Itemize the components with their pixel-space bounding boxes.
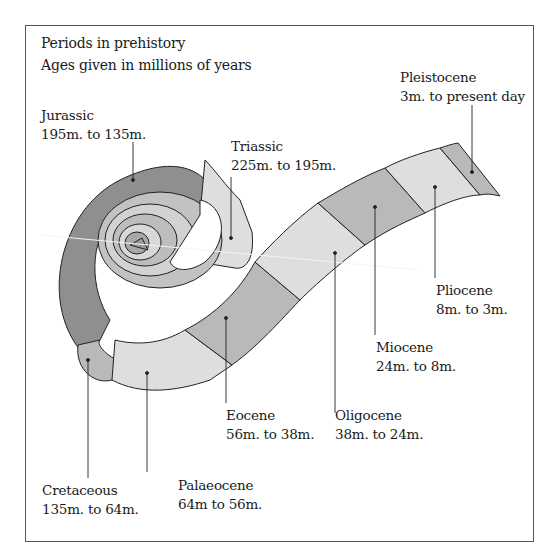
period-range: 56m. to 38m. [226, 425, 314, 444]
period-name: Palaeocene [178, 476, 262, 495]
period-range: 24m. to 8m. [376, 357, 456, 376]
label-triassic: Triassic 225m. to 195m. [231, 137, 336, 175]
period-name: Pleistocene [400, 68, 525, 87]
label-miocene: Miocene 24m. to 8m. [376, 338, 456, 376]
period-range: 3m. to present day [400, 87, 525, 106]
period-range: 225m. to 195m. [231, 156, 336, 175]
label-jurassic: Jurassic 195m. to 135m. [41, 106, 146, 144]
period-name: Eocene [226, 406, 314, 425]
period-name: Triassic [231, 137, 336, 156]
period-name: Jurassic [41, 106, 146, 125]
label-pleistocene: Pleistocene 3m. to present day [400, 68, 525, 106]
label-cretaceous: Cretaceous 135m. to 64m. [42, 481, 139, 519]
period-range: 135m. to 64m. [42, 500, 139, 519]
period-range: 195m. to 135m. [41, 125, 146, 144]
label-eocene: Eocene 56m. to 38m. [226, 406, 314, 444]
period-name: Pliocene [436, 281, 508, 300]
period-range: 64m to 56m. [178, 495, 262, 514]
period-name: Cretaceous [42, 481, 139, 500]
period-name: Oligocene [335, 406, 423, 425]
period-range: 8m. to 3m. [436, 300, 508, 319]
label-oligocene: Oligocene 38m. to 24m. [335, 406, 423, 444]
label-pliocene: Pliocene 8m. to 3m. [436, 281, 508, 319]
label-palaeocene: Palaeocene 64m to 56m. [178, 476, 262, 514]
period-name: Miocene [376, 338, 456, 357]
period-range: 38m. to 24m. [335, 425, 423, 444]
